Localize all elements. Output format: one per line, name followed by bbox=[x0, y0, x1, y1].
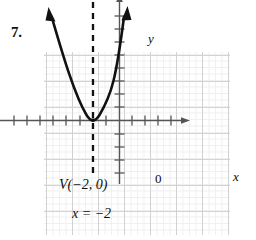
parabola-curve bbox=[46, 6, 132, 121]
vertex-point bbox=[91, 118, 95, 122]
y-axis-label: y bbox=[148, 31, 154, 47]
parabola-right-arrow-icon bbox=[122, 6, 132, 21]
y-axis-arrow-icon bbox=[116, 0, 123, 2]
x-axis-label: x bbox=[233, 169, 239, 185]
x-axis-arrow-icon bbox=[181, 117, 190, 124]
plot-svg bbox=[0, 0, 212, 188]
vertex-label: V(−2, 0) bbox=[59, 177, 107, 193]
figure-page: 7. bbox=[0, 0, 256, 240]
parabola-left-arrow-icon bbox=[46, 7, 56, 22]
origin-label: 0 bbox=[155, 171, 162, 187]
axis-of-symmetry-label: x = −2 bbox=[72, 206, 111, 222]
